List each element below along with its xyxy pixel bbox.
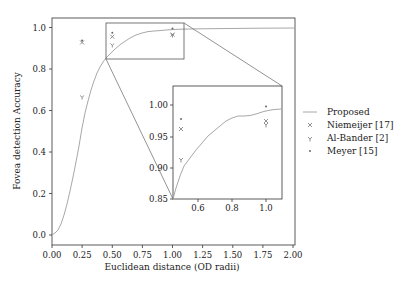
x-tick-label: 0.75 <box>133 250 152 260</box>
legend-label: Meyer [15] <box>327 146 378 156</box>
niemeijer-points <box>80 33 174 45</box>
legend: Proposed Niemeijer [17] Al-Bander [2] Me… <box>303 107 394 156</box>
x-tick-label: 1.50 <box>223 250 242 260</box>
connector-line <box>106 59 173 199</box>
al-bander-points <box>80 34 174 100</box>
inset-y-tick-label: 0.95 <box>149 132 168 142</box>
inset-frame <box>173 86 282 199</box>
x-axis: 0.00 0.25 0.50 0.75 1.00 1.25 1.50 1.75 … <box>43 245 303 260</box>
x-tick-label: 1.75 <box>253 250 272 260</box>
inset-plot: 0.85 0.90 0.95 1.00 0.6 0.8 1.0 <box>149 86 282 213</box>
y-tick-label: 0.4 <box>32 147 46 157</box>
legend-tri-marker-icon <box>308 137 312 142</box>
legend-x-marker-icon <box>308 123 312 127</box>
inset-x-tick-label: 0.8 <box>225 203 239 213</box>
inset-y-tick-label: 0.85 <box>149 194 168 204</box>
legend-label: Al-Bander [2] <box>326 133 388 143</box>
x-axis-label: Euclidean distance (OD radii) <box>104 262 239 272</box>
y-tick-label: 0.2 <box>32 189 46 199</box>
y-tick-label: 0.8 <box>32 64 46 74</box>
y-tick-label: 0.0 <box>32 230 46 240</box>
y-axis-label: Fovea detection Accuracy <box>12 71 22 190</box>
legend-label: Proposed <box>327 107 370 117</box>
y-tick-label: 1.0 <box>32 23 46 33</box>
inset-y-tick-label: 0.90 <box>149 163 168 173</box>
x-tick-label: 2.00 <box>284 250 303 260</box>
x-tick-label: 0.50 <box>103 250 122 260</box>
inset-y-tick-label: 1.00 <box>149 100 168 110</box>
legend-dot-marker-icon <box>309 150 311 152</box>
x-tick-label: 0.25 <box>73 250 92 260</box>
x-tick-label: 1.25 <box>193 250 212 260</box>
y-axis: 0.0 0.2 0.4 0.6 0.8 1.0 <box>32 23 52 241</box>
connector-line <box>184 23 282 86</box>
inset-x-tick-label: 0.6 <box>191 203 205 213</box>
chart: 0.0 0.2 0.4 0.6 0.8 1.0 0.00 0.25 0.50 0… <box>0 0 404 282</box>
inset-x-tick-label: 1.0 <box>259 203 273 213</box>
x-tick-label: 1.00 <box>163 250 182 260</box>
x-tick-label: 0.00 <box>43 250 62 260</box>
legend-label: Niemeijer [17] <box>327 120 394 130</box>
y-tick-label: 0.6 <box>32 106 46 116</box>
